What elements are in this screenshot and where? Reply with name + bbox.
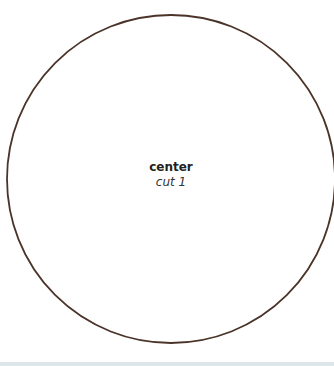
bottom-strip bbox=[0, 362, 334, 366]
label-title: center bbox=[121, 160, 221, 175]
label-subtitle: cut 1 bbox=[121, 175, 221, 190]
circle-label: center cut 1 bbox=[121, 160, 221, 190]
